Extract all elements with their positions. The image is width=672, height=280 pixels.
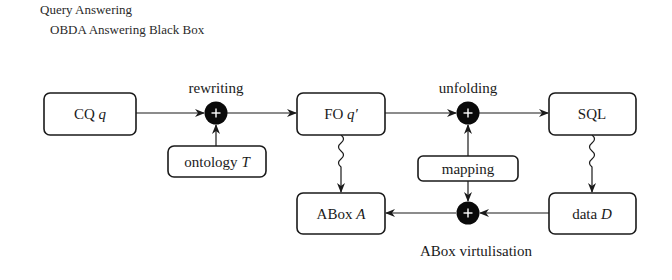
edge-fo-to-abox-wavy [339, 135, 344, 192]
obda-diagram: CQ q ontology T FO q′ SQL mapping ABox A… [0, 0, 672, 280]
node-abox-var: A [355, 206, 366, 222]
node-fo-var: q′ [347, 106, 359, 122]
svg-text:FO q′: FO q′ [324, 106, 358, 122]
node-data-var: D [600, 206, 612, 222]
operator-unfolding-label: unfolding [439, 80, 498, 96]
operator-rewriting: rewriting [189, 80, 244, 125]
edge-sql-to-data-wavy [590, 135, 595, 192]
node-sql: SQL [549, 93, 636, 135]
node-data-label: data [572, 206, 601, 222]
node-fo: FO q′ [297, 93, 385, 135]
operator-rewriting-label: rewriting [189, 80, 244, 96]
operator-unfolding: unfolding [439, 80, 498, 125]
node-mapping: mapping [418, 156, 518, 181]
operator-virtualisation: ABox virtulisation [420, 202, 533, 260]
node-ontology: ontology T [168, 146, 266, 177]
svg-text:CQ q: CQ q [74, 106, 107, 122]
node-data: data D [549, 193, 636, 234]
node-abox-label: ABox [317, 206, 357, 222]
node-ontology-label: ontology [184, 154, 241, 170]
svg-text:data D: data D [572, 206, 612, 222]
node-cq-label: CQ [74, 106, 99, 122]
node-fo-label: FO [324, 106, 347, 122]
operator-virtualisation-label: ABox virtulisation [420, 243, 533, 259]
svg-text:ABox A: ABox A [317, 206, 367, 222]
node-sql-label: SQL [578, 106, 606, 122]
node-abox: ABox A [297, 193, 385, 234]
svg-text:ontology T: ontology T [184, 154, 251, 170]
node-cq-var: q [99, 106, 107, 122]
node-cq: CQ q [44, 93, 136, 135]
node-mapping-label: mapping [442, 161, 495, 177]
